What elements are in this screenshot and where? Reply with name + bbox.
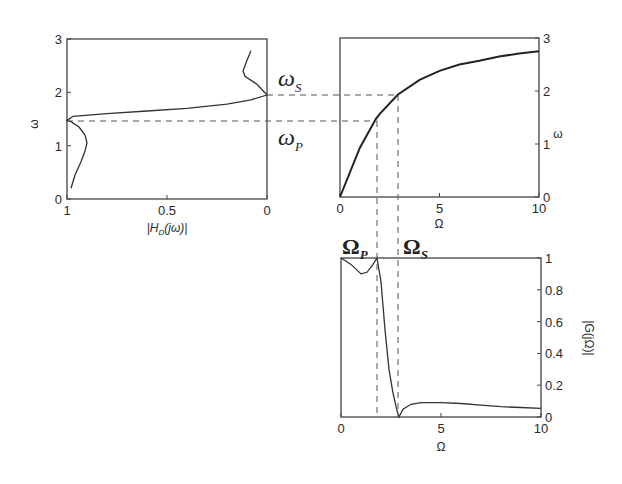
upper-right-y-label: ω [553,127,562,141]
y-tick-label: 0 [55,192,62,207]
Omega-p-annotation: ΩP [342,234,369,262]
left-plot-frame [67,39,267,199]
x-tick-label: 5 [436,201,443,216]
y-tick-label: 2 [55,85,62,100]
left-y-label: ω [27,119,41,128]
y-tick-label: 3 [55,32,62,47]
warping-curve [340,51,539,197]
lower-right-x-label: Ω [437,440,446,454]
y-tick-label: 3 [543,31,550,46]
figure: 0123 10.50 ω |HD(jω)| 0123 0510 Ω ω 00.2… [0,0,622,484]
y-tick-label: 2 [543,84,550,99]
x-tick-label: 1 [63,203,70,218]
y-tick-label: 1 [545,251,552,266]
x-tick-label: 0 [337,421,344,436]
y-tick-label: 0.6 [545,315,563,330]
lower-magnitude-curve [341,258,541,417]
x-tick-label: 5 [437,421,444,436]
upper-right-x-label: Ω [435,217,444,231]
y-tick-label: 0.8 [545,283,563,298]
left-x-label: |HD(jω)| [147,221,188,237]
lower-right-plot-frame [341,258,541,417]
x-tick-label: 0 [263,203,270,218]
omega-p-annotation: ωP [278,124,303,154]
Omega-s-annotation: ΩS [403,234,428,262]
y-tick-label: 0.2 [545,378,563,393]
left-magnitude-curve [67,51,267,189]
lower-right-y-label: |G(jΩ)| [582,320,596,355]
y-tick-label: 1 [543,137,550,152]
y-tick-label: 0.4 [545,346,563,361]
x-tick-label: 0.5 [158,203,176,218]
omega-s-annotation: ωS [278,65,302,95]
upper-right-plot-frame [340,38,539,197]
x-tick-label: 10 [534,421,548,436]
x-tick-label: 0 [336,201,343,216]
y-tick-label: 1 [55,139,62,154]
upper-right-y-ticks: 0123 [535,31,550,205]
x-tick-label: 10 [532,201,546,216]
